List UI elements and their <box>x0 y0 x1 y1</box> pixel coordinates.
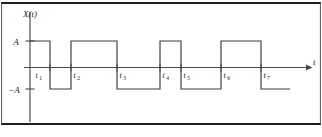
x-tick-label-t1-base: t <box>36 71 39 80</box>
x-tick-label-t3-base: t <box>120 71 123 80</box>
frame-border <box>1 3 321 124</box>
x-tick-label-t4-base: t <box>163 71 166 80</box>
x-axis-group <box>24 64 313 70</box>
x-tick-label-t3-subscript: 3 <box>123 75 126 81</box>
x-tick-label-t4: t 4 <box>163 71 170 81</box>
x-tick-label-t5-base: t <box>184 71 187 80</box>
waveform-plot: X(t) t A −A t 1 t 2 <box>0 0 322 137</box>
x-axis-label: t <box>313 57 316 67</box>
x-tick-label-t2-base: t <box>74 71 77 80</box>
level-label-positive-a: A <box>12 37 19 47</box>
x-tick-label-t5-subscript: 5 <box>187 75 190 81</box>
x-tick-label-t5: t 5 <box>184 71 191 81</box>
x-tick-label-t6: t 6 <box>224 71 231 81</box>
x-tick-label-t7-subscript: 7 <box>267 75 270 81</box>
x-tick-label-t2-subscript: 2 <box>77 75 80 81</box>
x-tick-label-t1: t 1 <box>36 71 43 81</box>
x-tick-label-t7: t 7 <box>264 71 271 81</box>
x-tick-label-t2: t 2 <box>74 71 81 81</box>
x-axis-arrowhead-icon <box>306 64 313 70</box>
x-tick-label-t4-subscript: 4 <box>166 75 169 81</box>
level-label-negative-a: −A <box>8 85 20 95</box>
x-tick-label-t6-base: t <box>224 71 227 80</box>
y-axis-label: X(t) <box>22 9 37 19</box>
x-tick-label-t6-subscript: 6 <box>227 75 230 81</box>
x-tick-label-t3: t 3 <box>120 71 127 81</box>
x-tick-label-t7-base: t <box>264 71 267 80</box>
x-tick-label-t1-subscript: 1 <box>39 75 42 81</box>
figure-frame: X(t) t A −A t 1 t 2 <box>0 0 322 137</box>
